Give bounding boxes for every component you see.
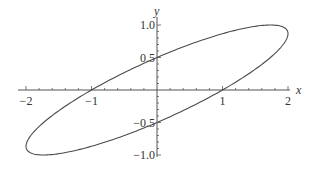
ellipse-plot: −2−1121.00.5−0.5−1.0 x y [0, 0, 315, 171]
axes [18, 17, 290, 157]
y-tick-label: 0.5 [140, 51, 155, 65]
y-tick-label: 1.0 [140, 18, 155, 32]
x-axis-label: x [295, 83, 302, 97]
x-tick-label: 1 [220, 94, 226, 108]
y-tick-label: −1.0 [133, 148, 155, 162]
y-axis-label: y [153, 4, 160, 18]
x-tick-label: −2 [20, 94, 33, 108]
x-tick-label: 2 [285, 94, 291, 108]
x-tick-label: −1 [85, 94, 98, 108]
